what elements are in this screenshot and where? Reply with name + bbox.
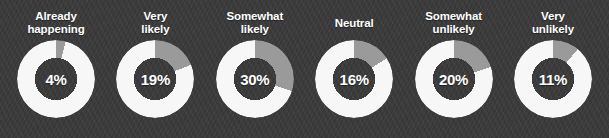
donut-label: Somewhat likely — [205, 8, 305, 38]
donut-cell: Already happening 4% — [8, 0, 104, 138]
donut-value: 4% — [17, 40, 95, 118]
donut-cell: Very unlikely 11% — [505, 0, 601, 138]
donut-label: Very likely — [105, 8, 205, 38]
donut-chart-row: Already happening 4% Very likely 19% Som… — [0, 0, 609, 138]
donut-value: 16% — [315, 40, 393, 118]
donut-cell: Very likely 19% — [107, 0, 203, 138]
donut-label: Already happening — [6, 8, 106, 38]
donut-chart: 16% — [315, 40, 393, 118]
donut-chart: 30% — [216, 40, 294, 118]
donut-value: 19% — [116, 40, 194, 118]
donut-chart: 19% — [116, 40, 194, 118]
donut-cell: Neutral 16% — [306, 0, 402, 138]
donut-chart: 20% — [415, 40, 493, 118]
donut-label: Somewhat unlikely — [404, 8, 504, 38]
donut-label: Neutral — [304, 8, 404, 38]
donut-label: Very unlikely — [503, 8, 603, 38]
donut-value: 11% — [514, 40, 592, 118]
donut-value: 20% — [415, 40, 493, 118]
donut-chart: 4% — [17, 40, 95, 118]
donut-value: 30% — [216, 40, 294, 118]
donut-chart: 11% — [514, 40, 592, 118]
donut-cell: Somewhat unlikely 20% — [406, 0, 502, 138]
donut-cell: Somewhat likely 30% — [207, 0, 303, 138]
